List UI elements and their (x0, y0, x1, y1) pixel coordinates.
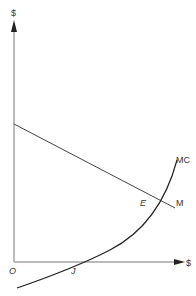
mc-curve-label: MC (176, 155, 190, 165)
y-axis-label: $ (11, 8, 16, 18)
diagram: $ $ O M MC E J (0, 0, 196, 296)
x-axis-arrow-icon (174, 259, 185, 265)
m-line (14, 124, 175, 208)
origin-label: O (9, 266, 16, 276)
y-axis-arrow-icon (11, 20, 17, 32)
point-e-label: E (140, 198, 147, 208)
point-j-label: J (70, 266, 76, 276)
x-axis-label: $ (186, 258, 191, 268)
m-line-label: M (176, 198, 184, 208)
mc-curve (17, 160, 177, 288)
